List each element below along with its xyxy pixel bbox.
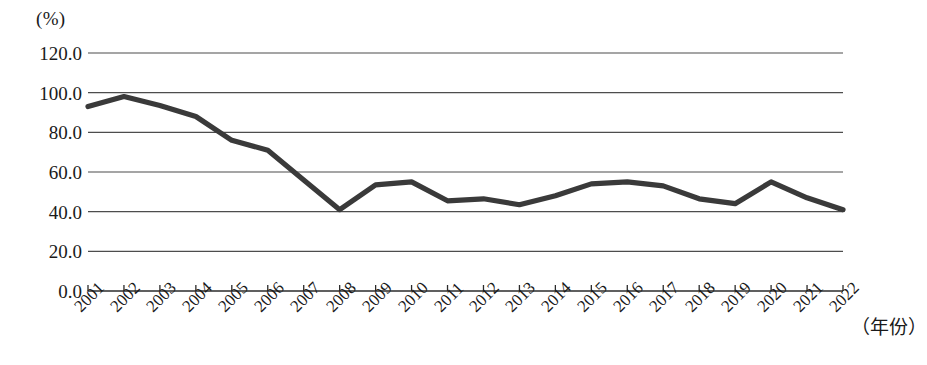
y-axis-tick-label-text: 80.0 [26, 123, 82, 142]
y-axis-tick-label-text: 100.0 [26, 84, 82, 103]
y-axis-tick-label-text: 60.0 [26, 163, 82, 182]
y-axis-tick-label-text: 20.0 [26, 242, 82, 261]
y-axis-tick-label-text: 120.0 [26, 44, 82, 63]
line-chart-figure: (%) 120.0100.080.060.040.020.00.0 200120… [0, 0, 927, 365]
x-axis-title: （年份） [851, 318, 927, 337]
chart-plot-area [0, 0, 927, 365]
gridlines [88, 53, 843, 251]
data-series-line [88, 97, 843, 210]
y-axis-tick-label-text: 40.0 [26, 203, 82, 222]
